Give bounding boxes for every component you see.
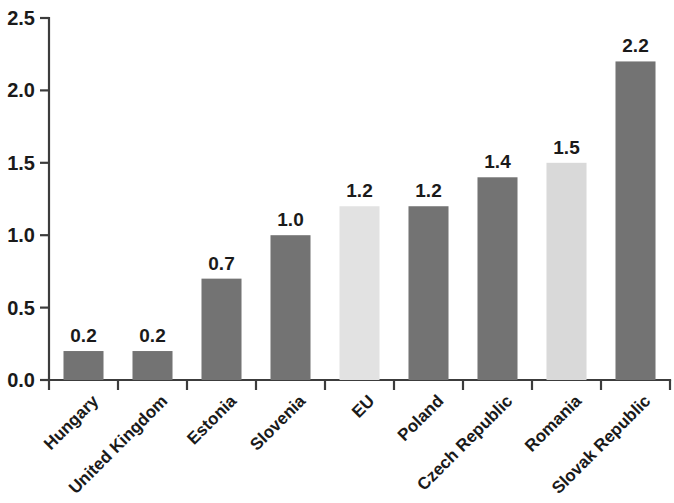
bar-value-label: 1.2 — [415, 180, 441, 201]
y-tick-label: 0.0 — [7, 369, 35, 391]
bar — [132, 351, 172, 380]
bar-value-label: 0.2 — [139, 325, 165, 346]
bar-value-label: 1.0 — [277, 209, 303, 230]
bar — [615, 61, 655, 380]
bar-chart: 0.00.51.01.52.02.5 0.20.20.71.01.21.21.4… — [0, 0, 674, 503]
chart-canvas: 0.00.51.01.52.02.5 0.20.20.71.01.21.21.4… — [0, 0, 674, 503]
bar — [63, 351, 103, 380]
bar-value-label: 0.2 — [70, 325, 96, 346]
bar — [270, 235, 310, 380]
y-tick-label: 0.5 — [7, 297, 35, 319]
bar-value-label: 0.7 — [208, 253, 234, 274]
bar — [339, 206, 379, 380]
y-tick-label: 2.0 — [7, 79, 35, 101]
bar — [546, 163, 586, 380]
bar — [201, 279, 241, 380]
bar — [408, 206, 448, 380]
bar — [477, 177, 517, 380]
bar-value-label: 2.2 — [622, 35, 648, 56]
bar-value-label: 1.4 — [484, 151, 511, 172]
bar-value-label: 1.2 — [346, 180, 372, 201]
y-tick-label: 1.5 — [7, 152, 35, 174]
y-tick-label: 2.5 — [7, 7, 35, 29]
y-tick-label: 1.0 — [7, 224, 35, 246]
bar-value-label: 1.5 — [553, 137, 580, 158]
